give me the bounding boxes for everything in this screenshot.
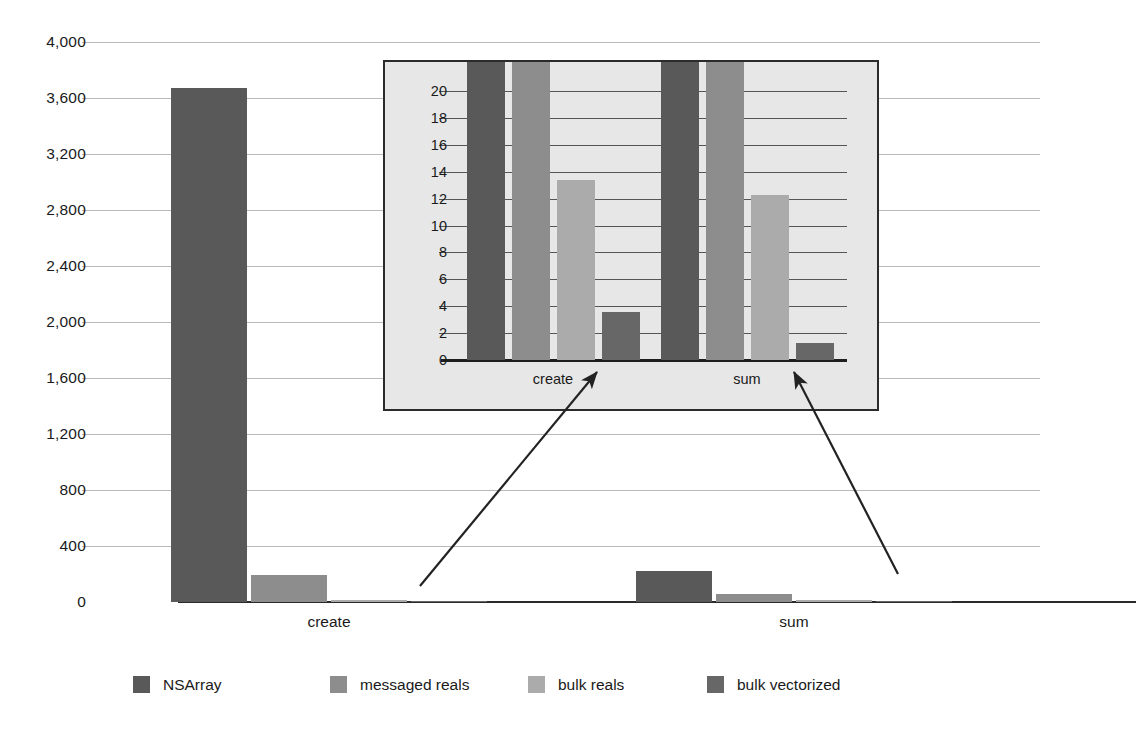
inset-chart-plot-area: createsum: [455, 62, 847, 413]
main-chart-bar: [876, 601, 952, 603]
chart-legend: NSArraymessaged realsbulk realsbulk vect…: [0, 665, 1078, 705]
inset-chart-y-tick-label: 4: [385, 299, 447, 314]
main-chart-bar: [636, 571, 712, 602]
legend-item-label: messaged reals: [360, 676, 469, 693]
main-chart-bar: [171, 88, 247, 602]
main-chart-bar: [716, 594, 792, 602]
main-chart-bar: [796, 600, 872, 602]
inset-chart-y-tick-label: 2: [385, 326, 447, 341]
inset-chart-bar: [467, 62, 505, 360]
inset-chart-bar: [512, 62, 550, 360]
main-chart-y-tick-label: 1,600: [0, 370, 86, 386]
inset-chart-y-tick-label: 0: [385, 353, 447, 368]
inset-chart-y-tick-label: 18: [385, 111, 447, 126]
main-chart-x-category-label: sum: [779, 614, 808, 630]
legend-item-label: bulk vectorized: [737, 676, 840, 693]
inset-chart-bar: [661, 62, 699, 360]
main-chart-y-tick-label: 1,200: [0, 426, 86, 442]
main-chart-bar: [411, 601, 487, 603]
inset-chart-bar: [796, 343, 834, 360]
main-chart-y-axis: 04008001,2001,6002,0002,4002,8003,2003,6…: [0, 0, 86, 737]
legend-swatch-icon: [330, 676, 347, 693]
main-chart-y-tick-label: 3,200: [0, 146, 86, 162]
legend-item[interactable]: messaged reals: [330, 673, 469, 695]
main-chart-y-tick-label: 400: [0, 538, 86, 554]
main-chart-x-category-label: create: [307, 614, 350, 630]
inset-chart-y-axis: 02468101214161820: [385, 62, 447, 413]
main-chart-y-tick-label: 2,800: [0, 202, 86, 218]
legend-item[interactable]: bulk vectorized: [707, 673, 840, 695]
inset-chart-y-tick-label: 12: [385, 191, 447, 206]
inset-chart-bar: [706, 62, 744, 360]
main-chart-y-tick-label: 2,000: [0, 314, 86, 330]
inset-chart-y-tick-label: 6: [385, 272, 447, 287]
inset-chart-x-category-label: create: [533, 372, 573, 387]
main-chart-y-tick-label: 2,400: [0, 258, 86, 274]
main-chart-y-tick-label: 800: [0, 482, 86, 498]
legend-item[interactable]: NSArray: [133, 673, 222, 695]
main-chart-bar: [331, 600, 407, 602]
main-chart-y-tick-label: 3,600: [0, 90, 86, 106]
legend-item[interactable]: bulk reals: [528, 673, 624, 695]
inset-chart-bar: [602, 312, 640, 360]
main-chart-bar: [251, 575, 327, 602]
legend-swatch-icon: [707, 676, 724, 693]
legend-swatch-icon: [133, 676, 150, 693]
legend-swatch-icon: [528, 676, 545, 693]
inset-chart-bar: [557, 180, 595, 360]
inset-chart-y-tick-label: 8: [385, 245, 447, 260]
inset-chart-bar: [751, 195, 789, 360]
inset-bar-chart: 02468101214161820 createsum: [383, 60, 879, 411]
legend-item-label: NSArray: [163, 676, 222, 693]
main-chart-y-tick-label: 0: [0, 594, 86, 610]
legend-item-label: bulk reals: [558, 676, 624, 693]
inset-chart-x-category-label: sum: [733, 372, 760, 387]
inset-chart-y-tick-label: 14: [385, 164, 447, 179]
inset-chart-y-tick-label: 16: [385, 138, 447, 153]
main-chart-y-tick-label: 4,000: [0, 34, 86, 50]
inset-chart-y-tick-label: 10: [385, 218, 447, 233]
inset-chart-y-tick-label: 20: [385, 84, 447, 99]
